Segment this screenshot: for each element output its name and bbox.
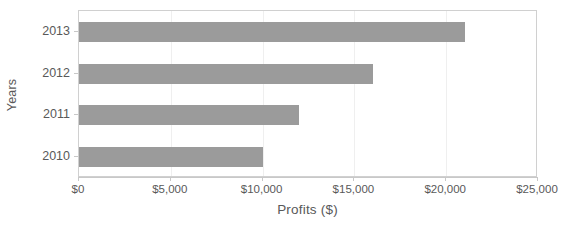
x-axis-title: Profits ($) (78, 202, 537, 217)
x-tick-label-5: $25,000 (516, 182, 558, 196)
x-tick-label-3: $15,000 (333, 182, 375, 196)
y-axis-tick-labels: 2013201220112010 (28, 10, 74, 177)
x-axis-line (78, 177, 537, 178)
x-tick-label-1: $5,000 (152, 182, 187, 196)
y-tick-mark (74, 31, 78, 32)
x-tick-label-0: $0 (72, 182, 85, 196)
x-axis-title-text: Profits ($) (277, 202, 338, 217)
bar-2013[interactable] (79, 22, 465, 42)
x-tick-mark (78, 177, 79, 181)
y-axis-title-text: Years (5, 79, 19, 112)
y-tick-mark (74, 156, 78, 157)
bar-2010[interactable] (79, 147, 263, 167)
x-tick-mark (170, 177, 171, 181)
y-tick-label-2011: 2011 (43, 107, 70, 121)
bar-2011[interactable] (79, 105, 299, 125)
plot-area (78, 10, 537, 177)
y-tick-mark (74, 73, 78, 74)
bar-2012[interactable] (79, 64, 373, 84)
x-tick-mark (262, 177, 263, 181)
y-tick-label-2010: 2010 (42, 149, 70, 163)
y-tick-label-2013: 2013 (42, 24, 70, 38)
y-tick-label-2012: 2012 (42, 66, 70, 80)
y-axis-title: Years (0, 0, 24, 190)
x-tick-mark (353, 177, 354, 181)
x-tick-mark (537, 177, 538, 181)
y-tick-mark (74, 114, 78, 115)
bar-chart: Years 2013201220112010 $0$5,000$10,000$1… (0, 0, 567, 236)
x-tick-label-4: $20,000 (424, 182, 466, 196)
x-tick-mark (445, 177, 446, 181)
x-tick-label-2: $10,000 (241, 182, 283, 196)
